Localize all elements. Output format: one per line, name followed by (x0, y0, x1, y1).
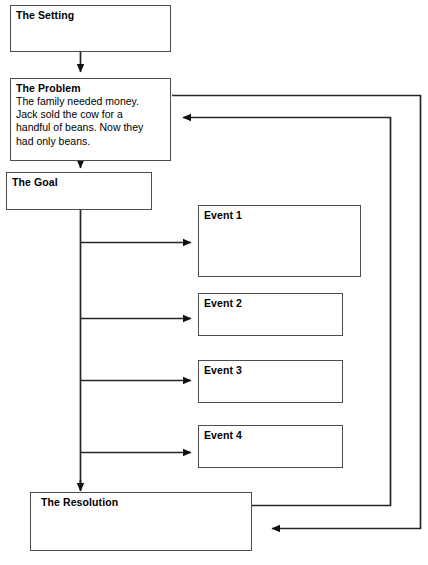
node-event-2-title: Event 2 (204, 297, 342, 310)
node-problem[interactable]: The Problem The family needed money. Jac… (10, 78, 171, 161)
node-event-1[interactable]: Event 1 (198, 205, 361, 277)
node-goal[interactable]: The Goal (6, 172, 152, 210)
node-setting[interactable]: The Setting (10, 5, 171, 52)
node-event-2[interactable]: Event 2 (198, 293, 343, 336)
story-map-diagram: The Setting The Problem The family neede… (0, 0, 428, 565)
node-event-3-title: Event 3 (204, 364, 342, 377)
node-resolution-title: The Resolution (36, 496, 251, 509)
node-problem-body-line: handful of beans. Now they (16, 121, 164, 134)
node-event-4[interactable]: Event 4 (198, 425, 343, 468)
node-setting-title: The Setting (16, 9, 170, 22)
node-event-4-title: Event 4 (204, 429, 342, 442)
node-problem-body: The family needed money. Jack sold the c… (16, 95, 170, 148)
node-problem-body-line: had only beans. (16, 135, 164, 148)
node-problem-body-line: The family needed money. (16, 95, 164, 108)
node-resolution[interactable]: The Resolution (30, 492, 252, 551)
node-problem-title: The Problem (16, 82, 170, 95)
node-event-1-title: Event 1 (204, 209, 360, 222)
node-event-3[interactable]: Event 3 (198, 360, 343, 403)
node-problem-body-line: Jack sold the cow for a (16, 108, 164, 121)
node-goal-title: The Goal (12, 176, 151, 189)
